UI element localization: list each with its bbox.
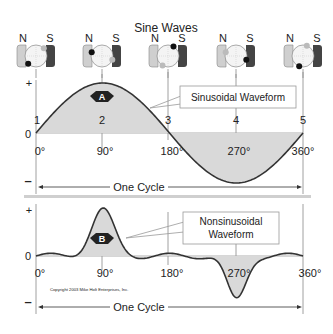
- bottom-degree-270: 270°: [228, 267, 251, 279]
- arrow-left-icon: [38, 305, 43, 309]
- bottom-degree-0: 0°: [35, 267, 46, 279]
- conductor-dot-icon: [243, 57, 249, 63]
- copyright-text: Copyright 2003 Mike Holt Enterprises, In…: [50, 287, 128, 292]
- point-label-4: 4: [233, 114, 239, 126]
- north-pole-icon: [217, 45, 226, 67]
- arrow-left-icon: [38, 185, 43, 189]
- south-label: S: [313, 32, 320, 44]
- nonsinusoidal-callout-line1: Nonsinusoidal: [200, 216, 263, 227]
- top-minus-label: –: [24, 173, 31, 188]
- top-one-cycle-label: One Cycle: [113, 181, 164, 193]
- conductor-dot-icon: [296, 63, 302, 69]
- north-label: N: [151, 32, 159, 44]
- south-label: S: [112, 32, 119, 44]
- conductor-dot-icon: [41, 45, 47, 51]
- conductor-dot-icon: [160, 63, 166, 69]
- south-label: S: [178, 32, 185, 44]
- conductor-dot-icon: [171, 44, 177, 50]
- top-degree-90: 90°: [97, 145, 114, 157]
- sinusoidal-callout-text: Sinusoidal Waveform: [191, 92, 285, 103]
- conductor-dot-icon: [89, 49, 95, 55]
- diagram-title: Sine Waves: [134, 21, 198, 35]
- point-label-3: 3: [165, 114, 171, 126]
- arrow-right-icon: [297, 185, 302, 189]
- badge-a-label: A: [99, 92, 106, 102]
- south-label: S: [246, 32, 253, 44]
- generator-3: NS: [149, 32, 187, 78]
- top-zero-label: 0: [25, 128, 31, 140]
- top-chart: + 0 – 1 2 3 4 5 0° 90° 180° 270° 360° A …: [24, 72, 314, 194]
- top-degree-270: 270°: [228, 145, 251, 157]
- north-pole-icon: [149, 45, 158, 67]
- conductor-dot-icon: [25, 61, 31, 67]
- generator-row: NSNSNSNSNS: [17, 32, 322, 78]
- arrow-right-icon: [297, 305, 302, 309]
- bottom-minus-label: –: [24, 294, 31, 309]
- north-label: N: [19, 32, 27, 44]
- section-divider: [24, 195, 311, 198]
- bottom-degree-90: 90°: [97, 267, 114, 279]
- north-label: N: [286, 32, 294, 44]
- bottom-one-cycle-label: One Cycle: [113, 301, 164, 313]
- conductor-dot-icon: [109, 57, 115, 63]
- north-pole-icon: [17, 45, 26, 67]
- top-degree-180: 180°: [161, 145, 184, 157]
- point-label-5: 5: [300, 114, 306, 126]
- generator-1: NS: [17, 32, 55, 78]
- point-label-1: 1: [34, 114, 40, 126]
- south-label: S: [46, 32, 53, 44]
- conductor-dot-icon: [304, 43, 310, 49]
- point-label-2: 2: [99, 114, 105, 126]
- bottom-chart: + 0 – 0° 90° 180° 270° 360° B Nonsinusoi…: [24, 204, 321, 314]
- south-pole-icon: [178, 45, 187, 67]
- south-pole-icon: [313, 45, 322, 67]
- nonsinusoidal-callout-line2: Waveform: [208, 229, 253, 240]
- top-degree-360: 360°: [292, 145, 315, 157]
- generator-5: NS: [284, 32, 322, 78]
- generator-4: NS: [217, 32, 255, 78]
- bottom-zero-label: 0: [25, 250, 31, 262]
- bottom-degree-360: 360°: [299, 267, 322, 279]
- north-pole-icon: [284, 45, 293, 67]
- bottom-degree-180: 180°: [161, 267, 184, 279]
- badge-b-label: B: [99, 234, 106, 244]
- top-plus-label: +: [26, 77, 32, 89]
- north-label: N: [85, 32, 93, 44]
- generator-2: NS: [83, 32, 121, 78]
- sine-waves-diagram: Sine Waves NSNSNSNSNS + 0 – 1 2 3 4 5 0°…: [0, 0, 333, 334]
- south-pole-icon: [246, 45, 255, 67]
- north-label: N: [219, 32, 227, 44]
- top-degree-0: 0°: [35, 145, 46, 157]
- conductor-dot-icon: [223, 49, 229, 55]
- bottom-plus-label: +: [26, 204, 32, 216]
